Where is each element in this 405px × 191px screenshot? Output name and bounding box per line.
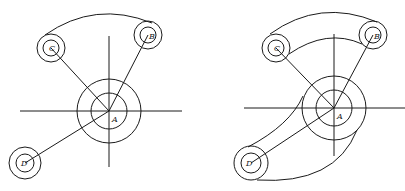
left-figure: A B C D bbox=[9, 14, 182, 179]
diagram-canvas: A B C D A B C D bbox=[0, 0, 405, 191]
right-figure: A B C D bbox=[234, 12, 405, 180]
line-a-c bbox=[276, 48, 334, 108]
label-c: C bbox=[49, 44, 55, 53]
line-a-b bbox=[334, 35, 373, 108]
label-d: D bbox=[245, 159, 253, 168]
label-b: B bbox=[148, 32, 155, 41]
arc-d-a-upper bbox=[248, 96, 303, 147]
arc-c-b-inner bbox=[289, 38, 362, 54]
label-c: C bbox=[274, 44, 280, 53]
label-d: D bbox=[20, 159, 28, 168]
arc-c-b-outer bbox=[270, 12, 377, 34]
arc-d-a-lower bbox=[257, 130, 357, 180]
line-a-b bbox=[109, 35, 148, 111]
label-a: A bbox=[336, 112, 343, 121]
line-a-c bbox=[51, 48, 109, 111]
label-b: B bbox=[373, 32, 380, 41]
line-a-d bbox=[25, 111, 109, 163]
label-a: A bbox=[111, 115, 118, 124]
line-a-d bbox=[251, 108, 334, 163]
arc-c-b bbox=[45, 14, 152, 35]
